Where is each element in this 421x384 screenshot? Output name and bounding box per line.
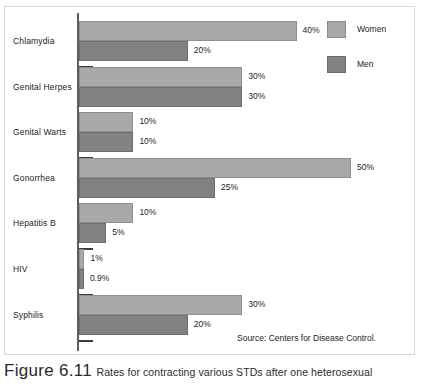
source-note: Source: Centers for Disease Control.	[237, 333, 376, 343]
category-group: HIV1%0.9%	[5, 249, 416, 299]
category-label: Gonorrhea	[5, 173, 71, 183]
bar-value-label: 10%	[139, 207, 156, 217]
bar-men[interactable]	[79, 41, 188, 61]
bar-row: 20%	[79, 41, 351, 61]
legend-swatch-men	[327, 56, 346, 73]
bar-row: 30%	[79, 67, 351, 87]
bar-value-label: 20%	[194, 45, 211, 55]
caption-description: Rates for contracting various STDs after…	[97, 366, 373, 378]
bar-men[interactable]	[79, 132, 133, 152]
bar-row: 10%	[79, 132, 351, 152]
bar-women[interactable]	[79, 203, 133, 223]
figure-container: Chlamydia40%20%Genital Herpes30%30%Genit…	[0, 0, 421, 384]
bar-row: 50%	[79, 158, 351, 178]
bar-value-label: 30%	[248, 299, 265, 309]
bar-value-label: 20%	[194, 319, 211, 329]
bar-row: 40%	[79, 21, 351, 41]
category-group: Hepatitis B10%5%	[5, 203, 416, 253]
category-label: Genital Warts	[5, 127, 71, 137]
bar-row: 10%	[79, 203, 351, 223]
plot-area: Chlamydia40%20%Genital Herpes30%30%Genit…	[5, 7, 416, 356]
bar-value-label: 10%	[139, 136, 156, 146]
bar-women[interactable]	[79, 158, 351, 178]
bar-value-label: 40%	[303, 25, 320, 35]
category-label: Syphilis	[5, 310, 71, 320]
category-group: Gonorrhea50%25%	[5, 158, 416, 208]
bar-women[interactable]	[79, 295, 242, 315]
category-label: Hepatitis B	[5, 218, 71, 228]
axis-tick	[79, 340, 93, 342]
bar-women[interactable]	[79, 21, 297, 41]
bar-men[interactable]	[79, 315, 188, 335]
bar-value-label: 25%	[221, 182, 238, 192]
bar-women[interactable]	[79, 249, 84, 269]
caption-figure-number: Figure 6.11	[4, 361, 92, 380]
legend-label: Men	[357, 59, 374, 69]
category-label: HIV	[5, 264, 71, 274]
bar-value-label: 30%	[248, 91, 265, 101]
bar-value-label: 0.9%	[90, 273, 109, 283]
legend-swatch-women	[327, 21, 346, 38]
bar-row: 5%	[79, 223, 351, 243]
bar-men[interactable]	[79, 223, 106, 243]
bar-women[interactable]	[79, 67, 242, 87]
bar-row: 10%	[79, 112, 351, 132]
bar-row: 0.9%	[79, 269, 351, 289]
bar-women[interactable]	[79, 112, 133, 132]
category-group: Genital Warts10%10%	[5, 112, 416, 162]
bar-value-label: 5%	[112, 227, 124, 237]
category-label: Chlamydia	[5, 36, 71, 46]
category-group: Genital Herpes30%30%	[5, 67, 416, 117]
bar-row: 20%	[79, 315, 351, 335]
bar-men[interactable]	[79, 178, 215, 198]
figure-caption: Figure 6.11 Rates for contracting variou…	[4, 361, 418, 381]
chart-plate: Chlamydia40%20%Genital Herpes30%30%Genit…	[4, 6, 415, 355]
bar-value-label: 1%	[90, 253, 102, 263]
category-label: Genital Herpes	[5, 82, 71, 92]
legend-label: Women	[357, 24, 386, 34]
bar-row: 1%	[79, 249, 351, 269]
bar-value-label: 30%	[248, 71, 265, 81]
bar-row: 25%	[79, 178, 351, 198]
bar-value-label: 50%	[357, 162, 374, 172]
bar-row: 30%	[79, 295, 351, 315]
bar-men[interactable]	[79, 87, 242, 107]
bar-row: 30%	[79, 87, 351, 107]
bar-men[interactable]	[79, 269, 84, 289]
category-group: Chlamydia40%20%	[5, 21, 416, 71]
bar-value-label: 10%	[139, 116, 156, 126]
